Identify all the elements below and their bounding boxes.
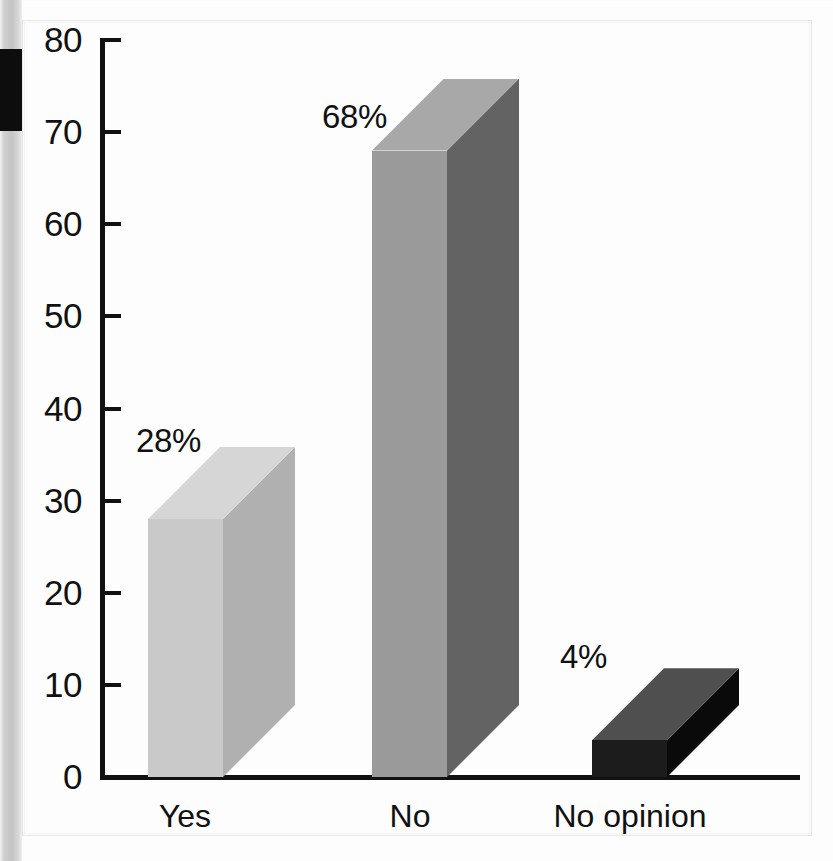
bar-data-label: 28%	[136, 424, 201, 457]
bar-front-face	[592, 740, 667, 777]
chart-page: 80706050403020100 28%68%4% YesNoNo opini…	[0, 0, 833, 861]
bar-no-opinion	[0, 0, 833, 861]
x-axis-label-no-opinion: No opinion	[490, 800, 770, 832]
bar-chart-plot-area: 80706050403020100 28%68%4% YesNoNo opini…	[0, 0, 833, 861]
bar-data-label: 4%	[560, 640, 607, 673]
bar-data-label: 68%	[322, 100, 387, 133]
